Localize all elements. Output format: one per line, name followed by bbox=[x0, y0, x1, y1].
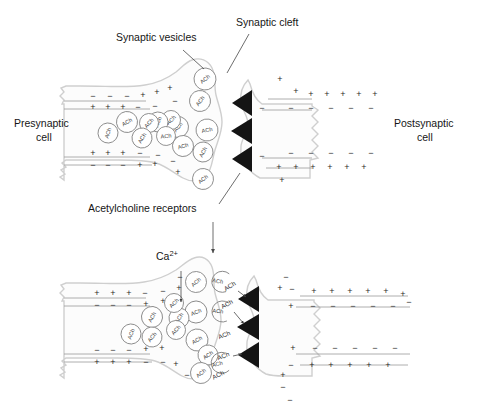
svg-text:−: − bbox=[310, 301, 315, 311]
svg-text:−: − bbox=[137, 148, 142, 158]
synapse-diagram: − − − + + + + + + − − − + + + − − − − − … bbox=[0, 0, 482, 413]
svg-text:+: + bbox=[279, 175, 284, 185]
svg-text:−: − bbox=[160, 286, 165, 296]
svg-text:−: − bbox=[288, 360, 293, 370]
svg-text:−: − bbox=[370, 301, 375, 311]
svg-text:−: − bbox=[135, 102, 140, 112]
svg-text:+: + bbox=[126, 288, 131, 298]
svg-text:−: − bbox=[124, 91, 129, 101]
svg-text:−: − bbox=[110, 300, 115, 310]
ach-diffusion-arrow-icon bbox=[238, 291, 246, 297]
receptor-triangle-icon[interactable] bbox=[231, 118, 252, 144]
svg-text:+: + bbox=[293, 162, 298, 172]
svg-text:−: − bbox=[390, 301, 395, 311]
svg-text:−: − bbox=[352, 343, 357, 353]
svg-text:−: − bbox=[177, 272, 182, 282]
svg-text:+: + bbox=[293, 86, 298, 96]
svg-text:+: + bbox=[328, 360, 333, 370]
svg-text:+: + bbox=[159, 343, 164, 353]
free-ach-label: ACh bbox=[216, 350, 230, 361]
svg-text:+: + bbox=[126, 357, 131, 367]
svg-text:−: − bbox=[259, 103, 264, 113]
svg-text:−: − bbox=[308, 103, 313, 113]
svg-text:+: + bbox=[280, 370, 285, 380]
svg-text:+: + bbox=[356, 89, 361, 99]
svg-text:+: + bbox=[90, 102, 95, 112]
svg-text:+: + bbox=[288, 301, 293, 311]
svg-text:+: + bbox=[327, 162, 332, 172]
postsynaptic-cell-label-line1: Postsynaptic bbox=[394, 117, 454, 129]
svg-text:+: + bbox=[140, 90, 145, 100]
svg-text:+: + bbox=[385, 360, 390, 370]
presynaptic-cell-label-line2: cell bbox=[36, 131, 52, 143]
svg-text:+: + bbox=[372, 89, 377, 99]
svg-text:−: − bbox=[330, 301, 335, 311]
svg-text:+: + bbox=[120, 102, 125, 112]
svg-text:+: + bbox=[366, 360, 371, 370]
calcium-ion-label: Ca2+ bbox=[156, 249, 179, 262]
svg-text:+: + bbox=[277, 74, 282, 84]
svg-text:−: − bbox=[328, 148, 333, 158]
svg-text:−: − bbox=[283, 272, 288, 282]
svg-text:−: − bbox=[105, 160, 110, 170]
postsynaptic-cell-label-line2: cell bbox=[417, 131, 433, 143]
free-ach-label: ACh bbox=[223, 279, 238, 292]
svg-text:−: − bbox=[170, 156, 175, 166]
svg-text:+: + bbox=[347, 360, 352, 370]
svg-text:−: − bbox=[328, 103, 333, 113]
svg-text:+: + bbox=[120, 148, 125, 158]
svg-text:−: − bbox=[143, 357, 148, 367]
svg-text:+: + bbox=[277, 283, 282, 293]
svg-text:−: − bbox=[94, 300, 99, 310]
svg-text:−: − bbox=[392, 343, 397, 353]
svg-text:+: + bbox=[340, 89, 345, 99]
svg-text:−: − bbox=[184, 370, 189, 380]
svg-text:−: − bbox=[368, 103, 373, 113]
svg-text:+: + bbox=[105, 148, 110, 158]
svg-text:+: + bbox=[400, 289, 405, 299]
svg-text:+: + bbox=[344, 162, 349, 172]
svg-text:+: + bbox=[347, 286, 352, 296]
svg-text:+: + bbox=[365, 286, 370, 296]
acetylcholine-receptor-group[interactable] bbox=[231, 90, 252, 172]
svg-text:+: + bbox=[110, 357, 115, 367]
svg-text:ACh: ACh bbox=[211, 360, 223, 368]
svg-text:−: − bbox=[142, 288, 147, 298]
lower-panel-transmitter-release: + + + − − + − − − + + − − − − + + + + + … bbox=[60, 249, 412, 405]
svg-text:+: + bbox=[310, 162, 315, 172]
svg-text:−: − bbox=[287, 395, 292, 405]
svg-text:+: + bbox=[361, 162, 366, 172]
ach-diffusion-arrow-icon bbox=[234, 312, 244, 324]
svg-text:−: − bbox=[107, 91, 112, 101]
svg-text:−: − bbox=[110, 345, 115, 355]
svg-text:+: + bbox=[309, 360, 314, 370]
svg-text:−: − bbox=[372, 343, 377, 353]
svg-text:+: + bbox=[154, 87, 159, 97]
svg-text:−: − bbox=[152, 101, 157, 111]
svg-text:+: + bbox=[94, 357, 99, 367]
svg-text:ACh: ACh bbox=[160, 133, 171, 140]
svg-text:+: + bbox=[324, 89, 329, 99]
svg-text:−: − bbox=[368, 148, 373, 158]
svg-text:−: − bbox=[288, 103, 293, 113]
upper-panel-resting-state: − − − + + + + + + − − − + + + − − − − − … bbox=[14, 16, 454, 214]
svg-text:+: + bbox=[311, 286, 316, 296]
acetylcholine-receptor-group[interactable] bbox=[237, 286, 259, 368]
svg-text:−: − bbox=[160, 357, 165, 367]
svg-text:+: + bbox=[383, 286, 388, 296]
postsynaptic-top-outer-charges: − − + + + + + + + bbox=[277, 272, 405, 299]
svg-text:+: + bbox=[175, 167, 180, 177]
svg-text:−: − bbox=[280, 382, 285, 392]
presynaptic-bottom-outer-charges: + + + − − + − bbox=[94, 357, 189, 380]
svg-text:−: − bbox=[312, 343, 317, 353]
svg-text:+: + bbox=[173, 359, 178, 369]
svg-text:−: − bbox=[94, 345, 99, 355]
postsynaptic-top-outer-charges: + + + + + + + bbox=[277, 74, 377, 99]
svg-text:−: − bbox=[90, 91, 95, 101]
free-ach-label: ACh bbox=[220, 298, 235, 310]
synaptic-cleft-label: Synaptic cleft bbox=[236, 16, 299, 28]
svg-text:+: + bbox=[152, 159, 157, 169]
synaptic-vesicles-label: Synaptic vesicles bbox=[116, 31, 197, 43]
presynaptic-cell-label-line1: Presynaptic bbox=[14, 117, 69, 129]
svg-text:+: + bbox=[329, 286, 334, 296]
